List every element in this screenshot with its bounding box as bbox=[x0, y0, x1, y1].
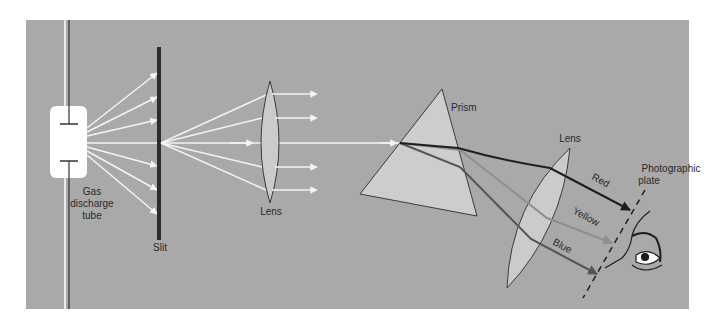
spectroscope-diagram: Gas discharge tube Slit Lens Prism Lens bbox=[0, 0, 717, 326]
plate-label-line2: plate bbox=[638, 175, 660, 186]
lens-2-label: Lens bbox=[559, 133, 581, 144]
slit-label: Slit bbox=[153, 242, 167, 253]
prism-label: Prism bbox=[451, 102, 477, 113]
tube-label-line1: Gas bbox=[83, 186, 101, 197]
tube-label-line3: tube bbox=[82, 210, 102, 221]
background-panel bbox=[26, 20, 689, 309]
slit bbox=[157, 47, 161, 240]
tube-label-line2: discharge bbox=[70, 198, 114, 209]
plate-label-line1: Photographic bbox=[642, 163, 701, 174]
lens-1-label: Lens bbox=[260, 206, 282, 217]
gas-discharge-tube bbox=[50, 106, 87, 178]
